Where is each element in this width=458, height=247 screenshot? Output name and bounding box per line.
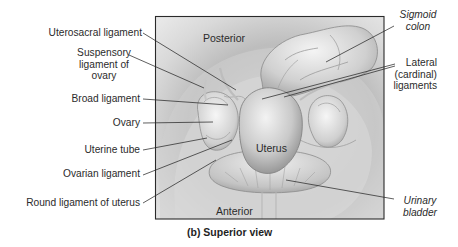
label-ovary: Ovary [113,117,140,129]
posterior-label: Posterior [203,32,245,44]
label-ovarian-ligament: Ovarian ligament [63,168,140,180]
label-suspensory-ligament-of-ovary: Suspensory ligament of ovary [74,47,134,82]
figure: Posterior Uterus Anterior Uterosacral li… [0,0,458,247]
label-sigmoid-colon: Sigmoid colon [392,9,444,32]
label-uterosacral-ligament: Uterosacral ligament [49,27,142,39]
figure-caption: (b) Superior view [187,226,272,238]
label-urinary-bladder: Urinary bladder [398,195,442,218]
uterus-label: Uterus [256,142,287,154]
anterior-label: Anterior [216,205,253,217]
label-uterine-tube: Uterine tube [85,144,141,156]
label-round-ligament-of-uterus: Round ligament of uterus [26,197,140,209]
label-broad-ligament: Broad ligament [71,93,140,105]
label-lateral-cardinal-ligaments: Lateral (cardinal) ligaments [392,57,437,92]
